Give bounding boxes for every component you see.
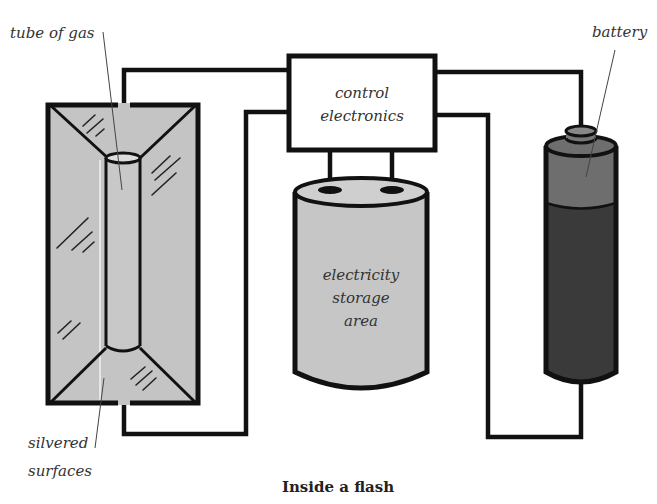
silvered-surfaces-label-line1: silvered [28, 434, 88, 452]
flash-diagram: control electronics electricity storage … [0, 0, 657, 504]
diagram-caption: Inside a flash [282, 478, 394, 496]
storage-label-line2: storage [332, 289, 389, 307]
gas-tube [106, 153, 140, 351]
silvered-surfaces-label-line2: surfaces [28, 462, 92, 480]
control-electronics-box: control electronics [289, 56, 435, 150]
storage-label-line3: area [344, 312, 378, 330]
battery [546, 126, 616, 382]
control-label-line1: control [335, 84, 389, 102]
wire-control-to-battery-top [435, 72, 581, 128]
tube-of-gas-label: tube of gas [10, 24, 95, 42]
battery-label: battery [592, 23, 648, 41]
storage-label-line1: electricity [323, 266, 400, 284]
control-label-line2: electronics [320, 107, 404, 125]
electricity-storage-capacitor: electricity storage area [295, 178, 427, 388]
